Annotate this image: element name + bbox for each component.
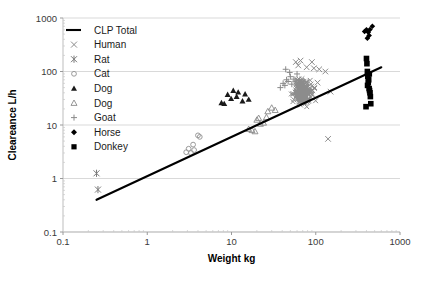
legend-item-human-1[interactable]: Human (71, 39, 126, 50)
legend-label: Horse (94, 127, 121, 138)
y-tick-label: 0.1 (44, 227, 57, 238)
legend-label: Dog (94, 83, 112, 94)
x-tick-label: 100 (308, 236, 324, 247)
marker-square-fill (364, 56, 370, 62)
data-layer (94, 23, 382, 199)
marker-triangle-open (71, 100, 77, 105)
y-tick-label: 100 (41, 66, 57, 77)
marker-diamond-fill (71, 129, 77, 135)
marker-triangle-fill (242, 91, 248, 96)
marker-square-fill (368, 94, 374, 100)
marker-triangle-open (265, 108, 271, 113)
series-horse (362, 23, 375, 40)
legend-item-cat-3[interactable]: Cat (72, 68, 110, 79)
scatter-plot: 0.111010010000.11101001000Weight kgClear… (0, 0, 423, 285)
marker-triangle-fill (246, 96, 252, 101)
y-tick-label: 1 (52, 173, 57, 184)
marker-cross-x (309, 59, 315, 65)
y-axis-title: Cleareance L/h (7, 89, 18, 160)
clp-total-fit-line (97, 67, 382, 200)
marker-square-fill (71, 144, 76, 149)
x-axis-title: Weight kg (208, 253, 256, 264)
marker-circle-open (72, 71, 77, 76)
legend-label: Cat (94, 68, 110, 79)
marker-asterisk (95, 186, 101, 193)
marker-square-fill (365, 83, 371, 89)
marker-plus (287, 69, 293, 75)
marker-square-fill (364, 61, 370, 67)
y-tick-label: 10 (46, 120, 57, 131)
marker-asterisk (71, 56, 77, 63)
legend-item-dog-5[interactable]: Dog (71, 98, 112, 109)
marker-circle-open (191, 142, 196, 147)
marker-cross-x (315, 80, 321, 86)
legend-item-clp-total-0[interactable]: CLP Total (66, 25, 137, 36)
x-tick-label: 10 (226, 236, 237, 247)
marker-triangle-fill (225, 92, 231, 97)
marker-plus (71, 115, 77, 121)
x-tick-label: 1 (145, 236, 150, 247)
marker-cross-x (304, 64, 310, 70)
marker-cross-x (293, 59, 299, 65)
x-tick-label: 0.1 (56, 236, 69, 247)
marker-square-fill (366, 77, 372, 83)
series-rat (94, 170, 101, 193)
y-tick-label: 1000 (36, 13, 57, 24)
legend-item-dog-4[interactable]: Dog (71, 83, 112, 94)
legend-item-rat-2[interactable]: Rat (71, 54, 110, 65)
legend-item-goat-6[interactable]: Goat (71, 112, 116, 123)
marker-cross-x (325, 136, 331, 142)
series-dog (246, 105, 278, 134)
marker-triangle-fill (71, 85, 77, 90)
marker-triangle-fill (230, 88, 236, 93)
legend-label: CLP Total (94, 25, 137, 36)
legend-label: Dog (94, 98, 112, 109)
marker-square-fill (363, 104, 369, 110)
marker-cross-x (71, 42, 77, 48)
legend-label: Goat (94, 112, 116, 123)
series-dog (218, 88, 251, 107)
legend-label: Rat (94, 54, 110, 65)
series-donkey (363, 56, 373, 110)
legend-item-donkey-8[interactable]: Donkey (71, 141, 128, 152)
marker-cross-x (311, 65, 317, 71)
marker-square-fill (368, 101, 374, 107)
marker-asterisk (94, 170, 100, 177)
marker-triangle-fill (235, 89, 241, 94)
x-tick-label: 1000 (389, 236, 410, 247)
legend-label: Donkey (94, 141, 128, 152)
chart-container: 0.111010010000.11101001000Weight kgClear… (0, 0, 423, 285)
legend-label: Human (94, 39, 126, 50)
marker-circle-open (192, 148, 197, 153)
marker-triangle-fill (239, 98, 245, 103)
legend-item-horse-7[interactable]: Horse (71, 127, 121, 138)
